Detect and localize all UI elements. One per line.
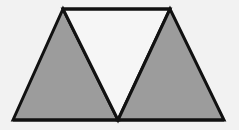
trapezoid-triangles-diagram xyxy=(0,0,239,130)
diagram-canvas xyxy=(0,0,239,130)
